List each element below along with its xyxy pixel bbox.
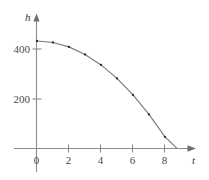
y-axis-label: h bbox=[25, 11, 31, 23]
chart-figure: 400 200 0 2 4 6 8 h t bbox=[0, 0, 209, 180]
y-tick-label-400: 400 bbox=[14, 43, 31, 55]
x-tick-label-2: 2 bbox=[66, 154, 72, 166]
height-curve bbox=[37, 41, 177, 148]
x-axis-label: t bbox=[192, 154, 196, 166]
x-tick-label-4: 4 bbox=[98, 154, 104, 166]
data-point bbox=[52, 41, 54, 43]
data-point bbox=[68, 46, 70, 48]
data-point bbox=[164, 136, 166, 138]
height-vs-time-plot: 400 200 0 2 4 6 8 h t bbox=[0, 0, 209, 180]
data-point bbox=[36, 40, 38, 42]
data-point bbox=[132, 94, 134, 96]
x-tick-label-8: 8 bbox=[162, 154, 168, 166]
x-tick-label-0: 0 bbox=[34, 154, 40, 166]
data-point bbox=[148, 113, 150, 115]
y-axis-arrow-icon bbox=[33, 14, 39, 22]
data-point bbox=[100, 64, 102, 66]
y-tick-label-200: 200 bbox=[14, 93, 31, 105]
x-axis-arrow-icon bbox=[188, 145, 197, 152]
data-point bbox=[116, 77, 118, 79]
data-series-height bbox=[36, 40, 177, 148]
x-tick-label-6: 6 bbox=[130, 154, 136, 166]
x-axis bbox=[14, 145, 196, 153]
data-point bbox=[84, 53, 86, 55]
